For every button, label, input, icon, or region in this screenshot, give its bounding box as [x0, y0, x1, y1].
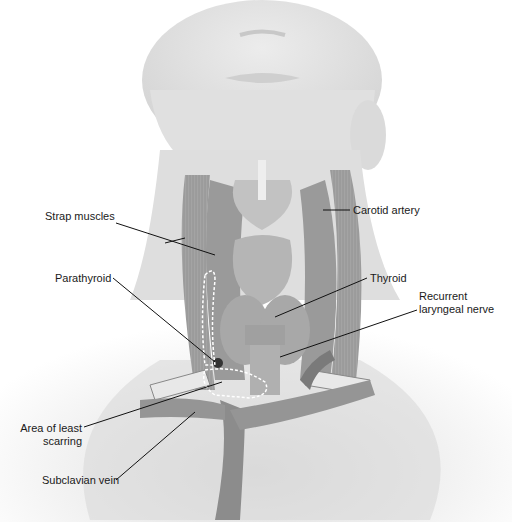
label-subclavian-vein: Subclavian vein: [42, 474, 119, 487]
label-area-line1: Area of least: [20, 422, 82, 435]
label-parathyroid: Parathyroid: [55, 272, 111, 285]
label-strap-muscles: Strap muscles: [45, 210, 115, 223]
label-carotid-artery: Carotid artery: [353, 204, 420, 217]
label-recurrent-line1: Recurrent: [419, 290, 494, 303]
label-area-of-least-scarring: Area of least scarring: [20, 422, 82, 448]
label-thyroid: Thyroid: [370, 272, 407, 285]
label-recurrent-line2: laryngeal nerve: [419, 303, 494, 316]
label-area-line2: scarring: [20, 435, 82, 448]
label-recurrent-laryngeal-nerve: Recurrent laryngeal nerve: [419, 290, 494, 316]
